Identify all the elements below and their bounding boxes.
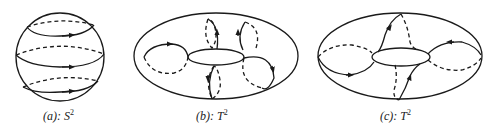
label-exponent: 2 — [70, 108, 74, 117]
torus-figure-c — [318, 13, 482, 100]
label-exponent: 2 — [407, 108, 411, 117]
label-exponent: 2 — [224, 108, 228, 117]
sphere-figure — [16, 13, 104, 101]
figure-label-b: (b): T2 — [196, 108, 228, 124]
label-symbol: T — [217, 109, 224, 123]
torus-figure-b — [134, 13, 298, 99]
figure-label-a: (a): S2 — [43, 108, 74, 124]
figure-label-c: (c): T2 — [380, 108, 411, 124]
label-symbol: T — [400, 109, 407, 123]
label-prefix: (c): — [380, 109, 397, 123]
label-prefix: (a): — [43, 109, 61, 123]
label-prefix: (b): — [196, 109, 214, 123]
